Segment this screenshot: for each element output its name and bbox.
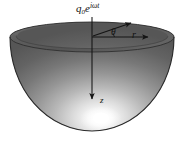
z-axis-label: z [100, 96, 104, 105]
source-strength-label: q0eiωt [76, 2, 99, 16]
source-exponent: iωt [90, 1, 99, 10]
theta-angle-label: θ [111, 28, 116, 38]
physics-figure-hemisphere: q0eiωt r θ z [0, 0, 184, 141]
hemisphere-illustration [0, 0, 184, 141]
specular-core [93, 113, 109, 124]
radial-axis-label: r [132, 30, 136, 40]
